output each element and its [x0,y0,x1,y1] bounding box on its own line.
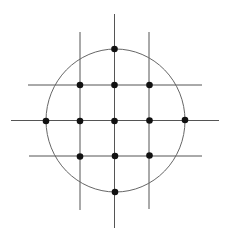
intersection-dot [77,118,84,125]
intersection-dot [112,153,119,160]
intersection-dot [111,118,118,125]
intersection-dot [111,46,118,53]
intersection-dot [77,82,84,89]
intersection-dot [146,117,153,124]
intersection-dot [43,118,50,125]
intersection-dot [146,82,153,89]
intersection-dot [182,117,189,124]
intersection-dot [112,189,119,196]
grid-circle-diagram [0,0,227,236]
intersection-dot [111,82,118,89]
intersection-dot [146,152,153,159]
intersection-dot [77,153,84,160]
